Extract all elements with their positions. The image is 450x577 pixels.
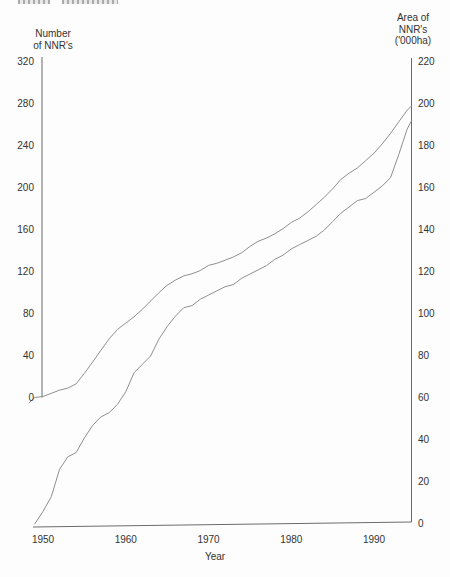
left-axis-tick-label: 160 [0, 224, 34, 236]
chart-plot [0, 0, 450, 577]
x-axis-tick-label: 1950 [21, 534, 65, 546]
x-axis-line [33, 522, 412, 527]
right-axis-tick-label: 40 [418, 434, 429, 446]
right-axis-tick-label: 20 [418, 476, 429, 488]
number-of-nnrs-curve [29, 106, 412, 403]
right-axis-tick-label: 200 [418, 98, 435, 110]
left-axis-tick-label: 80 [0, 308, 34, 320]
right-axis-tick-label: 100 [418, 308, 435, 320]
chart-figure: Number of NNR's Area of NNR's ('000ha) Y… [0, 0, 450, 577]
right-axis-tick-label: 0 [418, 518, 424, 530]
left-axis-tick-label: 200 [0, 182, 34, 194]
right-axis-tick-label: 220 [418, 56, 435, 68]
x-axis-tick-label: 1960 [104, 534, 148, 546]
left-axis-tick-label: 280 [0, 98, 34, 110]
left-axis-tick-label: 40 [0, 350, 34, 362]
x-axis-tick-label: 1980 [269, 534, 313, 546]
x-axis-tick-label: 1970 [187, 534, 231, 546]
right-axis-tick-label: 160 [418, 182, 435, 194]
x-axis-tick-label: 1990 [352, 534, 396, 546]
right-axis-tick-label: 140 [418, 224, 435, 236]
area-of-nnrs-curve [35, 121, 412, 524]
right-axis-tick-label: 60 [418, 392, 429, 404]
left-axis-tick-label: 120 [0, 266, 34, 278]
right-axis-tick-label: 180 [418, 140, 435, 152]
left-axis-tick-label: 0 [0, 392, 34, 404]
right-axis-tick-label: 120 [418, 266, 435, 278]
right-axis-tick-label: 80 [418, 350, 429, 362]
left-axis-tick-label: 320 [0, 56, 34, 68]
left-axis-tick-label: 240 [0, 140, 34, 152]
